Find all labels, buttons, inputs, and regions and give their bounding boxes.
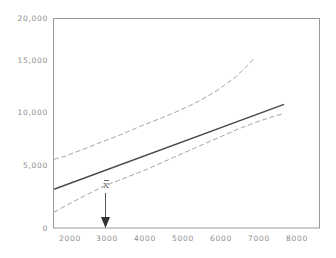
lower-confidence-band-line xyxy=(54,114,283,213)
x-tick-label-2000: 2000 xyxy=(52,234,88,243)
x-tick-label-3000: 3000 xyxy=(89,234,125,243)
x-tick-label-6000: 6000 xyxy=(203,234,239,243)
x-bar-arrow-head xyxy=(101,217,110,228)
x-tick-label-5000: 5000 xyxy=(165,234,201,243)
plot-frame xyxy=(54,19,320,229)
y-tick-label-0: 0 xyxy=(6,224,48,233)
y-tick-label-15000: 15,000 xyxy=(6,56,48,65)
x-bar-glyph: X xyxy=(101,182,111,190)
chart-figure: 20,000 15,000 10,000 5,000 0 2000 3000 4… xyxy=(0,0,336,258)
plot-area xyxy=(0,0,336,258)
x-bar-mean-label: X xyxy=(101,180,111,190)
upper-confidence-band-line xyxy=(54,58,255,160)
x-tick-label-7000: 7000 xyxy=(241,234,277,243)
regression-line xyxy=(54,104,284,189)
x-tick-label-8000: 8000 xyxy=(279,234,315,243)
x-tick-label-4000: 4000 xyxy=(127,234,163,243)
y-tick-label-20000: 20,000 xyxy=(6,14,48,23)
y-tick-label-10000: 10,000 xyxy=(6,108,48,117)
y-tick-label-5000: 5,000 xyxy=(6,161,48,170)
